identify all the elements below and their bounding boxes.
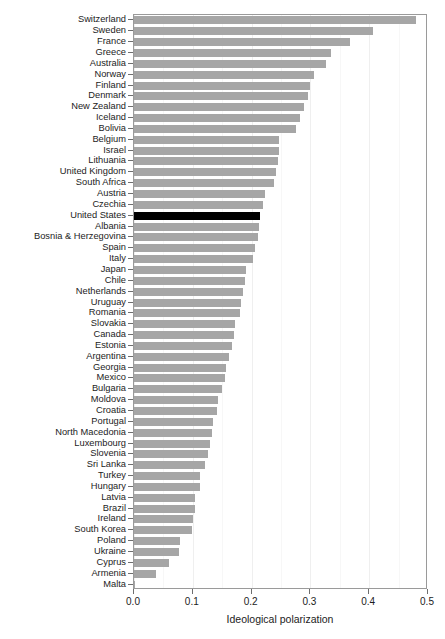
y-axis-tick	[128, 269, 133, 270]
bar	[134, 429, 212, 437]
y-axis-tick	[128, 453, 133, 454]
x-axis-tick-label: 0.0	[126, 595, 140, 608]
ideological-polarization-bar-chart: SwitzerlandSwedenFranceGreeceAustraliaNo…	[0, 0, 445, 639]
y-axis-label: Sri Lanka	[0, 459, 126, 469]
y-axis-label: Chile	[0, 275, 126, 285]
y-axis-label: Switzerland	[0, 14, 126, 24]
bar	[134, 179, 274, 187]
bar-row	[134, 483, 427, 491]
y-axis-label: Romania	[0, 307, 126, 317]
y-axis-tick	[128, 573, 133, 574]
bar	[134, 71, 314, 79]
plot-panel	[133, 14, 427, 589]
y-axis-tick	[128, 475, 133, 476]
y-axis-label: Spain	[0, 242, 126, 252]
y-axis-tick	[128, 529, 133, 530]
bar	[134, 581, 135, 589]
y-axis-label: Cyprus	[0, 557, 126, 567]
bar	[134, 396, 218, 404]
bar-row	[134, 537, 427, 545]
bar-row	[134, 266, 427, 274]
y-axis-label: United States	[0, 210, 126, 220]
bar	[134, 288, 243, 296]
bar-row	[134, 190, 427, 198]
y-axis-tick	[128, 74, 133, 75]
bar-row	[134, 526, 427, 534]
y-axis-tick	[128, 204, 133, 205]
y-axis-tick	[128, 236, 133, 237]
bar-row	[134, 288, 427, 296]
bar-row	[134, 125, 427, 133]
bar	[134, 472, 200, 480]
y-axis-tick	[128, 117, 133, 118]
y-axis-tick	[128, 291, 133, 292]
y-axis-label: Canada	[0, 329, 126, 339]
bar	[134, 266, 246, 274]
y-axis-label: Norway	[0, 69, 126, 79]
y-axis-tick	[128, 508, 133, 509]
bar-row	[134, 277, 427, 285]
bar	[134, 16, 416, 24]
bar-row	[134, 114, 427, 122]
y-axis-tick	[128, 106, 133, 107]
bar-row	[134, 440, 427, 448]
y-axis-tick	[128, 421, 133, 422]
bar-row	[134, 16, 427, 24]
bar	[134, 440, 210, 448]
y-axis-label: Luxembourg	[0, 438, 126, 448]
bar	[134, 450, 208, 458]
y-axis-tick	[128, 518, 133, 519]
y-axis-label: Denmark	[0, 90, 126, 100]
bar-row	[134, 299, 427, 307]
bar-row	[134, 581, 427, 589]
bar-row	[134, 38, 427, 46]
y-axis-tick	[128, 388, 133, 389]
bar-row	[134, 168, 427, 176]
y-axis-tick	[128, 410, 133, 411]
y-axis-label: Estonia	[0, 340, 126, 350]
bar	[134, 136, 279, 144]
x-axis-tick-label: 0.3	[302, 595, 316, 608]
y-axis-label: Israel	[0, 145, 126, 155]
x-axis-tick	[368, 589, 369, 594]
bar	[134, 494, 195, 502]
bar	[134, 92, 308, 100]
y-axis-tick	[128, 247, 133, 248]
bar-row	[134, 407, 427, 415]
bar	[134, 38, 350, 46]
y-axis-label: Japan	[0, 264, 126, 274]
y-axis-tick	[128, 63, 133, 64]
y-axis-tick	[128, 562, 133, 563]
bar	[134, 299, 241, 307]
bar	[134, 201, 263, 209]
y-axis-label: Bulgaria	[0, 383, 126, 393]
y-axis-tick	[128, 399, 133, 400]
y-axis-tick	[128, 486, 133, 487]
bar	[134, 537, 180, 545]
y-axis-tick	[128, 128, 133, 129]
y-axis-tick	[128, 226, 133, 227]
bar-row	[134, 461, 427, 469]
bar-row	[134, 429, 427, 437]
x-axis-tick-labels: 0.00.10.20.30.40.5	[133, 595, 427, 609]
y-axis-tick	[128, 323, 133, 324]
y-axis-label: Turkey	[0, 470, 126, 480]
y-axis-label: Netherlands	[0, 286, 126, 296]
x-axis-tick-label: 0.2	[244, 595, 258, 608]
bar-row	[134, 309, 427, 317]
bar	[134, 505, 195, 513]
y-axis-label: Croatia	[0, 405, 126, 415]
y-axis-label: Bolivia	[0, 123, 126, 133]
y-axis-label: Hungary	[0, 481, 126, 491]
y-axis-label: South Africa	[0, 177, 126, 187]
y-axis-tick	[128, 443, 133, 444]
bar-row	[134, 179, 427, 187]
bar	[134, 515, 193, 523]
y-axis-tick	[128, 95, 133, 96]
x-axis-tick	[192, 589, 193, 594]
y-axis-tick	[128, 280, 133, 281]
y-axis-tick	[128, 171, 133, 172]
y-axis-tick	[128, 377, 133, 378]
bar-row	[134, 374, 427, 382]
bar	[134, 548, 179, 556]
